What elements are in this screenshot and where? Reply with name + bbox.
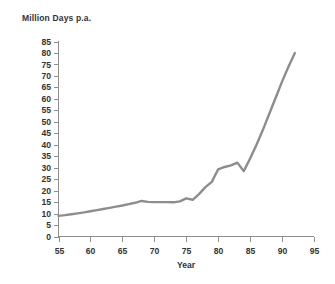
x-tick-label: 90 bbox=[278, 246, 288, 256]
data-series-group bbox=[59, 53, 295, 216]
x-tick-label: 70 bbox=[150, 246, 160, 256]
y-tick-label: 0 bbox=[46, 232, 51, 242]
x-tick-label: 65 bbox=[118, 246, 128, 256]
y-tick-label: 10 bbox=[41, 209, 51, 219]
y-tick-label: 65 bbox=[41, 82, 51, 92]
x-tick-label: 75 bbox=[182, 246, 192, 256]
y-tick-label: 45 bbox=[41, 128, 51, 138]
y-tick-label: 85 bbox=[41, 37, 51, 47]
data-series-line bbox=[59, 53, 295, 216]
line-chart-plot: 0510152025303540455055606570758085 55606… bbox=[0, 0, 335, 284]
x-tick-label: 55 bbox=[55, 246, 65, 256]
y-tick-label: 70 bbox=[41, 71, 51, 81]
x-tick-label: 60 bbox=[86, 246, 96, 256]
y-tick-label: 35 bbox=[41, 151, 51, 161]
y-tick-label: 50 bbox=[41, 117, 51, 127]
x-axis-ticks: 556065707580859095 bbox=[55, 237, 320, 257]
y-tick-label: 80 bbox=[41, 48, 51, 58]
y-tick-label: 25 bbox=[41, 174, 51, 184]
y-tick-label: 15 bbox=[41, 197, 51, 207]
y-tick-label: 60 bbox=[41, 94, 51, 104]
chart-container: Million Days p.a. 0510152025303540455055… bbox=[0, 0, 335, 284]
x-tick-label: 80 bbox=[214, 246, 224, 256]
y-tick-label: 55 bbox=[41, 105, 51, 115]
y-tick-label: 40 bbox=[41, 140, 51, 150]
y-tick-label: 5 bbox=[46, 220, 51, 230]
y-tick-label: 20 bbox=[41, 186, 51, 196]
x-tick-label: 95 bbox=[310, 246, 320, 256]
y-tick-label: 75 bbox=[41, 60, 51, 70]
x-axis-title: Year bbox=[177, 260, 196, 270]
y-axis-ticks: 0510152025303540455055606570758085 bbox=[41, 37, 58, 242]
y-tick-label: 30 bbox=[41, 163, 51, 173]
x-tick-label: 85 bbox=[246, 246, 256, 256]
